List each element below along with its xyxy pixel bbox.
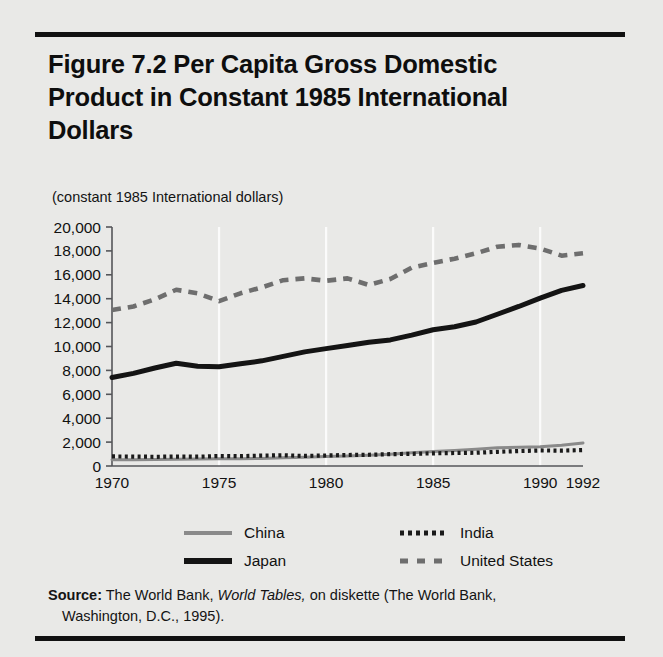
source-second-line: Washington, D.C., 1995). [48,606,618,627]
bottom-rule [35,636,625,641]
chart-legend: China Japan India Un [182,524,582,582]
legend-label-india: India [460,524,494,542]
series-line-united-states [112,245,583,310]
y-tick-label-20000: 20,000 [54,219,102,236]
x-tick-label-1985: 1985 [416,474,450,491]
x-tick-label-1975: 1975 [202,474,236,491]
legend-item-united-states: United States [398,552,553,570]
legend-label-united-states: United States [460,552,553,570]
legend-swatch-india [398,526,450,540]
x-tick-label-1970: 1970 [95,474,130,491]
y-tick-label-14000: 14,000 [54,290,102,307]
y-tick-label-10000: 10,000 [54,338,102,355]
series-line-japan [112,286,583,378]
legend-label-china: China [244,524,285,542]
legend-item-japan: Japan [182,552,286,570]
y-tick-label-18000: 18,000 [54,242,102,259]
figure-container: Figure 7.2 Per Capita Gross Domestic Pro… [0,0,663,657]
y-tick-label-0: 0 [92,458,101,475]
source-text-before: The World Bank, [102,587,218,603]
y-tick-label-2000: 2,000 [62,434,101,451]
x-tick-label-1980: 1980 [309,474,344,491]
y-tick-label-8000: 8,000 [62,362,101,379]
y-tick-label-4000: 4,000 [62,410,101,427]
y-tick-label-16000: 16,000 [54,266,102,283]
legend-swatch-united-states [398,554,450,568]
source-label: Source: [48,587,102,603]
legend-swatch-japan [182,554,234,568]
x-tick-label-1990: 1990 [523,474,558,491]
source-note: Source: The World Bank, World Tables, on… [48,585,618,626]
legend-item-india: India [398,524,494,542]
source-publication-title: World Tables, [218,587,306,603]
legend-label-japan: Japan [244,552,286,570]
x-tick-label-1992: 1992 [566,474,600,491]
y-tick-label-12000: 12,000 [54,314,102,331]
source-text-after: on diskette (The World Bank, [306,587,497,603]
y-tick-label-6000: 6,000 [62,386,101,403]
legend-swatch-china [182,526,234,540]
legend-item-china: China [182,524,285,542]
line-chart-svg: 02,0004,0006,0008,00010,00012,00014,0001… [0,0,663,500]
